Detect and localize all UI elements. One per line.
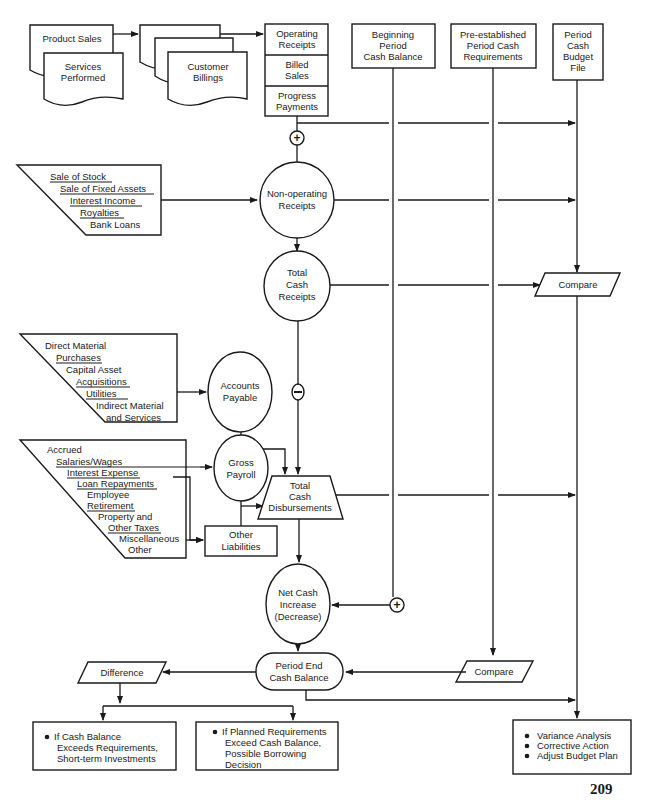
investments-outcome-box: If Cash Balance Exceeds Requirements, Sh… [33,722,176,770]
services-performed-document: Services Performed [44,53,123,105]
svg-text:Receipts: Receipts [279,39,316,50]
svg-text:Period Cash: Period Cash [467,40,519,51]
svg-text:Non-operating: Non-operating [267,188,327,199]
cash-budget-flowchart: Product Sales Services Performed Custome… [0,0,648,802]
non-operating-receipts-process: Non-operating Receipts [260,162,334,238]
svg-text:If Planned Requirements: If Planned Requirements [222,726,327,737]
svg-text:Liabilities: Liabilities [221,541,260,552]
svg-text:(Decrease): (Decrease) [275,611,322,622]
svg-text:Interest Income: Interest Income [70,195,135,206]
svg-text:Exceeds Requirements,: Exceeds Requirements, [57,742,158,753]
svg-text:Payable: Payable [223,392,257,403]
svg-text:Billed: Billed [285,59,308,70]
svg-text:Increase: Increase [280,599,316,610]
pre-established-requirements-box: Pre-established Period Cash Requirements [451,24,536,68]
svg-text:Purchases: Purchases [56,352,101,363]
svg-text:Sales: Sales [285,70,309,81]
svg-text:Product Sales: Product Sales [42,33,101,44]
svg-text:Operating: Operating [276,28,318,39]
svg-text:Cash: Cash [286,279,308,290]
svg-text:Utilities: Utilities [86,388,117,399]
payroll-inputs: Accrued Salaries/Wages Interest Expense … [20,440,200,558]
svg-text:Compare: Compare [558,279,597,290]
svg-text:Payroll: Payroll [226,469,255,480]
borrowing-outcome-box: If Planned Requirements Exceed Cash Bala… [196,722,338,770]
svg-text:Performed: Performed [61,72,105,83]
total-cash-disbursements-process: Total Cash Disbursements [258,476,343,519]
svg-text:Total: Total [287,267,307,278]
svg-text:Retirement: Retirement [87,500,134,511]
accounts-payable-process: Accounts Payable [208,352,272,432]
compare-top-parallelogram: Compare [535,273,620,296]
budget-file-box: Period Cash Budget File [553,24,603,80]
svg-text:Loan Repayments: Loan Repayments [77,478,154,489]
customer-billings-document-stack: Customer Billings [140,25,247,105]
svg-text:Cash: Cash [567,40,589,51]
svg-text:Exceed Cash Balance,: Exceed Cash Balance, [225,737,321,748]
svg-text:If Cash Balance: If Cash Balance [54,731,121,742]
svg-text:Services: Services [65,61,102,72]
svg-text:Payments: Payments [276,101,318,112]
svg-text:Royalties: Royalties [80,207,119,218]
plus-operator-icon: + [390,598,404,612]
receipts-file-box: Operating Receipts Billed Sales Progress… [265,24,328,116]
svg-text:Period: Period [379,40,406,51]
purchase-inputs: Direct Material Purchases Capital Asset … [20,334,177,423]
svg-text:Progress: Progress [278,90,316,101]
svg-text:Acquisitions: Acquisitions [76,376,127,387]
svg-text:Decision: Decision [225,759,261,770]
svg-text:Miscellaneous: Miscellaneous [119,533,179,544]
svg-text:Cash Balance: Cash Balance [269,672,328,683]
svg-text:Sale of Stock: Sale of Stock [50,171,106,182]
svg-text:Period End: Period End [275,660,322,671]
net-cash-process: Net Cash Increase (Decrease) [266,564,330,644]
svg-text:and Services: and Services [106,412,161,423]
svg-text:Receipts: Receipts [279,291,316,302]
svg-text:Cash Balance: Cash Balance [363,51,422,62]
svg-text:File: File [570,62,585,73]
compare-bottom-parallelogram: Compare [456,661,533,682]
svg-text:Beginning: Beginning [372,29,414,40]
svg-text:Other Taxes: Other Taxes [108,522,159,533]
svg-text:Short-term Investments: Short-term Investments [57,753,156,764]
svg-text:Billings: Billings [193,72,223,83]
svg-text:Receipts: Receipts [279,200,316,211]
svg-text:+: + [393,598,400,612]
svg-text:Difference: Difference [100,667,143,678]
svg-text:Other: Other [128,544,152,555]
other-liabilities-box: Other Liabilities [205,526,277,556]
svg-text:Accounts: Accounts [220,380,259,391]
non-operating-inputs: Sale of Stock Sale of Fixed Assets Inter… [17,165,161,235]
svg-text:Indirect Material: Indirect Material [96,400,164,411]
svg-text:Gross: Gross [228,457,254,468]
gross-payroll-process: Gross Payroll [214,435,268,501]
svg-text:Pre-established: Pre-established [460,29,526,40]
svg-text:Property and: Property and [98,511,152,522]
svg-text:Customer: Customer [187,61,228,72]
svg-text:Compare: Compare [474,666,513,677]
svg-text:Capital Asset: Capital Asset [66,364,122,375]
svg-text:Disbursements: Disbursements [268,502,332,513]
svg-text:Employee: Employee [87,489,129,500]
total-cash-receipts-process: Total Cash Receipts [264,251,330,321]
svg-text:Adjust Budget Plan: Adjust Budget Plan [537,750,618,761]
svg-text:Salaries/Wages: Salaries/Wages [56,456,122,467]
svg-text:Other: Other [229,529,253,540]
svg-text:Cash: Cash [289,491,311,502]
svg-text:Period: Period [564,29,591,40]
svg-text:Sale of Fixed Assets: Sale of Fixed Assets [60,183,146,194]
svg-text:+: + [293,131,300,145]
plus-operator-icon: + [290,131,304,145]
svg-text:Interest Expense: Interest Expense [67,467,138,478]
beginning-balance-box: Beginning Period Cash Balance [352,24,435,68]
svg-text:Direct Material: Direct Material [45,340,106,351]
svg-text:Total: Total [290,480,310,491]
svg-text:Accrued: Accrued [47,444,82,455]
svg-text:Budget: Budget [563,51,593,62]
svg-text:Possible Borrowing: Possible Borrowing [225,748,306,759]
svg-text:Net Cash: Net Cash [278,587,318,598]
page-number: 209 [590,781,613,797]
minus-operator-icon [292,384,304,400]
svg-text:Requirements: Requirements [463,51,522,62]
svg-text:Bank Loans: Bank Loans [90,219,140,230]
